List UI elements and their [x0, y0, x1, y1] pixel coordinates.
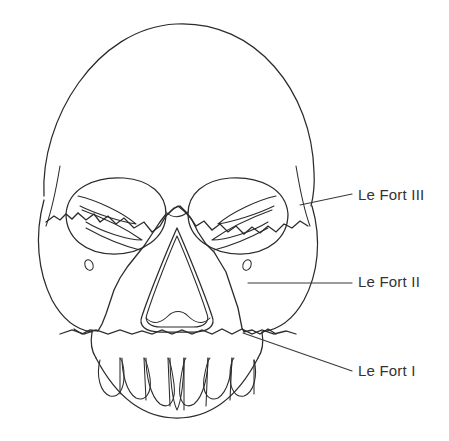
- le-fort-1-leader-line: [243, 333, 352, 371]
- infraorbital-foramina: [83, 258, 253, 271]
- right-infraorbital-foramen: [241, 258, 253, 271]
- face-left-border: [38, 200, 92, 332]
- orbits: [66, 178, 288, 254]
- left-orbit-inner-detail-b: [82, 210, 142, 240]
- le-fort-2-label: Le Fort II: [358, 273, 420, 290]
- maxilla-right-edge: [258, 332, 263, 358]
- le-fort-1-label: Le Fort I: [358, 362, 416, 379]
- left-infraorbital-foramen: [83, 258, 95, 271]
- nasal-aperture-outer: [141, 228, 213, 332]
- le-fort-3-fracture-line: [46, 206, 308, 234]
- le-fort-fracture-diagram: Le Fort fracture classification of the m…: [0, 0, 449, 441]
- maxilla-left-edge: [91, 332, 96, 358]
- nasal-region: [141, 212, 213, 332]
- teeth-dividers-group: [120, 358, 254, 410]
- skull-outline: [38, 24, 317, 332]
- skull-illustration: Le Fort fracture classification of the m…: [0, 0, 449, 441]
- tooth-7: [230, 358, 256, 396]
- nasal-sill: [146, 312, 210, 323]
- cranial-vault-outline: [44, 24, 314, 206]
- right-temporal-edge: [296, 166, 310, 226]
- fracture-lines: [46, 206, 308, 334]
- maxilla-and-teeth: [91, 332, 263, 418]
- le-fort-3-label: Le Fort III: [358, 186, 424, 203]
- le-fort-3-leader-line: [300, 194, 352, 205]
- nasal-aperture-inner: [146, 236, 208, 327]
- annotation-labels: Le Fort III Le Fort II Le Fort I: [243, 186, 424, 379]
